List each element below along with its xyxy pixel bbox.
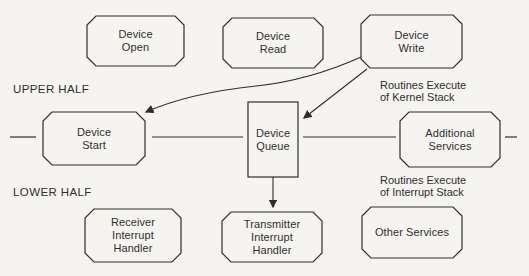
interrupt-stack-note-line2: of Interrupt Stack [380,186,466,198]
node-transmitter-label-line1: Transmitter [244,218,300,231]
node-device-open-label-line1: Device [118,28,152,41]
arrow-device-write-to-device-queue [304,69,367,118]
node-device-write: Device Write [361,15,462,68]
node-device-open-label-line2: Open [122,41,149,54]
node-device-queue: Device Queue [248,102,298,177]
node-additional-services-label-line2: Services [429,140,472,153]
node-additional-services: Additional Services [400,112,500,167]
node-receiver-label-line3: Handler [113,242,152,255]
lower-half-label: LOWER HALF [13,186,92,198]
node-transmitter-interrupt-handler: Transmitter Interrupt Handler [222,212,322,262]
node-device-write-label-line2: Write [399,42,425,55]
node-device-read: Device Read [223,18,323,68]
node-device-start-label-line2: Start [82,139,106,152]
device-driver-diagram: Device Open Device Read Device Write Dev… [0,0,529,276]
node-device-open: Device Open [87,16,184,66]
kernel-stack-note-line1: Routines Execute [380,79,466,91]
node-receiver-interrupt-handler: Receiver Interrupt Handler [85,209,181,262]
node-additional-services-label-line1: Additional [425,127,474,140]
node-other-services: Other Services [362,207,462,258]
node-device-queue-label-line2: Queue [256,140,290,153]
upper-half-label: UPPER HALF [13,83,89,95]
interrupt-stack-note: Routines Execute of Interrupt Stack [380,174,466,199]
node-device-read-label-line1: Device [256,30,290,43]
node-device-start: Device Start [43,112,145,165]
node-device-queue-label-line1: Device [256,127,290,140]
kernel-stack-note-line2: of Kernel Stack [380,91,466,103]
node-device-read-label-line2: Read [260,43,287,56]
node-other-services-label-line1: Other Services [375,226,449,239]
node-receiver-label-line1: Receiver [111,216,155,229]
node-transmitter-label-line3: Handler [252,244,291,257]
node-receiver-label-line2: Interrupt [112,229,154,242]
interrupt-stack-note-line1: Routines Execute [380,174,466,186]
kernel-stack-note: Routines Execute of Kernel Stack [380,79,466,104]
node-transmitter-label-line2: Interrupt [251,231,293,244]
node-device-start-label-line1: Device [77,126,111,139]
node-device-write-label-line1: Device [394,29,428,42]
